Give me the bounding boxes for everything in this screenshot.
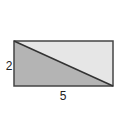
height-label: 2 <box>6 59 13 73</box>
rectangle-diagram: 2 5 <box>0 0 118 114</box>
width-label: 5 <box>60 89 67 103</box>
